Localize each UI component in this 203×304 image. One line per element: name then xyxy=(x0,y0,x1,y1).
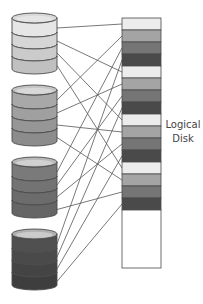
logical-block xyxy=(122,114,161,126)
disk-3-icon xyxy=(12,157,57,218)
physical-disks xyxy=(12,13,57,290)
mapping-lines xyxy=(57,24,122,282)
label-line-1: Logical xyxy=(163,118,203,132)
logical-block xyxy=(122,18,161,30)
logical-block xyxy=(122,126,161,138)
logical-block xyxy=(122,162,161,174)
label-line-2: Disk xyxy=(163,132,203,146)
logical-block xyxy=(122,42,161,54)
logical-block xyxy=(122,150,161,162)
logical-block xyxy=(122,54,161,66)
logical-block xyxy=(122,78,161,90)
logical-block xyxy=(122,138,161,150)
disk-4-icon xyxy=(12,229,57,290)
logical-free-space xyxy=(122,210,161,268)
logical-block xyxy=(122,186,161,198)
logical-block xyxy=(122,30,161,42)
logical-block xyxy=(122,66,161,78)
logical-disk xyxy=(122,18,161,268)
logical-disk-label: Logical Disk xyxy=(163,118,203,146)
logical-block xyxy=(122,90,161,102)
logical-block xyxy=(122,198,161,210)
logical-block xyxy=(122,174,161,186)
disk-1-icon xyxy=(12,13,57,74)
raid-striping-diagram xyxy=(0,0,203,304)
logical-block xyxy=(122,102,161,114)
disk-2-icon xyxy=(12,85,57,146)
